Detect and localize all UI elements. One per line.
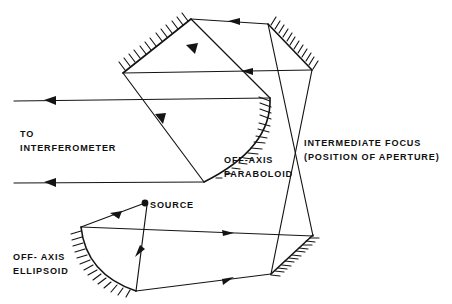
hatching-off-axis-ellipsoid xyxy=(71,231,130,297)
mirror-off-axis-ellipsoid xyxy=(71,227,136,297)
arrowhead-output-upper xyxy=(44,96,56,105)
mirror-flat-upper-left xyxy=(119,13,191,73)
label-off-axis-ellipsoid-line2: ELLIPSOID xyxy=(13,266,69,276)
arrowhead-ellipsoid-lower-ray xyxy=(222,277,234,285)
arrowhead-output-lower xyxy=(44,178,56,187)
hatching-upper-right xyxy=(271,17,318,69)
label-intermediate-focus-line1: INTERMEDIATE FOCUS xyxy=(304,138,421,148)
label-source: SOURCE xyxy=(150,199,194,213)
label-off-axis-paraboloid-line2: PARABOLOID xyxy=(224,169,293,179)
label-to-interferometer-line2: INTERFEROMETER xyxy=(20,143,116,153)
label-off-axis-ellipsoid: OFF- AXISELLIPSOID xyxy=(13,251,69,278)
label-intermediate-focus: INTERMEDIATE FOCUS(POSITION OF APERTURE) xyxy=(304,137,440,164)
label-to-interferometer: TOINTERFEROMETER xyxy=(20,128,116,155)
label-off-axis-paraboloid-line1: OFF-AXIS xyxy=(224,155,273,165)
hatching-upper-left xyxy=(119,13,188,70)
label-intermediate-focus-line2: (POSITION OF APERTURE) xyxy=(304,152,440,162)
arrowhead-to-paraboloid-upper xyxy=(186,43,198,54)
hatching-lower-right xyxy=(271,238,319,276)
source-point-marker xyxy=(142,200,149,207)
arrowhead-ellipsoid-upper-ray xyxy=(222,230,234,236)
optical-ray-diagram: TOINTERFEROMETER OFF-AXISPARABOLOID INTE… xyxy=(0,0,452,304)
arrowhead-upper-top-ray xyxy=(228,18,240,25)
label-off-axis-paraboloid: OFF-AXISPARABOLOID xyxy=(224,154,293,181)
ray-source-to-ellipsoid xyxy=(81,203,147,291)
label-to-interferometer-line1: TO xyxy=(20,129,34,139)
mirror-flat-lower-right xyxy=(271,235,319,276)
label-off-axis-ellipsoid-line1: OFF- AXIS xyxy=(13,252,65,262)
